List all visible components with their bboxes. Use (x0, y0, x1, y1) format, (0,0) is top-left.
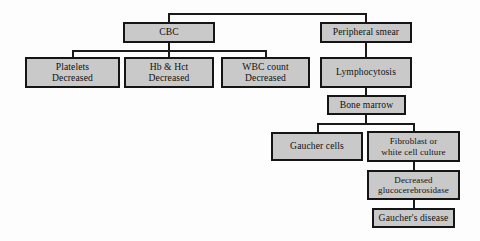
node-bone-marrow[interactable]: Bone marrow (327, 95, 406, 115)
node-platelets-decreased-label: Platelets Decreased (29, 62, 116, 84)
node-fibroblast-line-1: Fibroblast or (371, 136, 456, 146)
node-glucocerebrosidase-label: Decreased glucocerebrosidase (371, 175, 456, 196)
node-hb-hct-decreased-label: Hb & Hct Decreased (128, 62, 210, 84)
node-wbc-count-decreased[interactable]: WBC count Decreased (221, 57, 310, 88)
node-fibroblast-line-2: white cell culture (371, 147, 456, 157)
node-gaucher-cells[interactable]: Gaucher cells (271, 132, 363, 161)
node-wbc-count-decreased-label: WBC count Decreased (225, 62, 306, 84)
node-fibroblast-label: Fibroblast or white cell culture (371, 136, 456, 157)
node-platelets-decreased[interactable]: Platelets Decreased (25, 57, 120, 88)
node-hb-hct-decreased[interactable]: Hb & Hct Decreased (124, 57, 214, 88)
connector-root-horizontal (168, 13, 367, 15)
node-hb-hct-line-2: Decreased (128, 73, 210, 84)
node-glucocerebrosidase-line-1: Decreased (371, 175, 456, 185)
node-peripheral-smear-label: Peripheral smear (324, 27, 408, 38)
node-gauchers-disease-label: Gaucher's disease (376, 213, 451, 224)
flowchart-canvas: CBC Peripheral smear Platelets Decreased… (0, 0, 480, 241)
node-cbc-label: CBC (127, 27, 211, 38)
connector-bone-marrow-to-gaucher-cells (317, 123, 319, 132)
connector-bone-marrow-to-fibroblast (413, 123, 415, 131)
node-gaucher-cells-label: Gaucher cells (275, 141, 359, 152)
node-lymphocytosis-label: Lymphocytosis (324, 67, 408, 78)
node-lymphocytosis[interactable]: Lymphocytosis (320, 57, 412, 88)
connector-peripheral-to-lymphocytosis (365, 42, 367, 58)
node-fibroblast-white-cell-culture[interactable]: Fibroblast or white cell culture (367, 131, 460, 162)
node-platelets-line-1: Platelets (29, 62, 116, 73)
node-platelets-line-2: Decreased (29, 73, 116, 84)
node-wbc-line-2: Decreased (225, 73, 306, 84)
node-bone-marrow-label: Bone marrow (331, 100, 402, 111)
node-gauchers-disease[interactable]: Gaucher's disease (372, 208, 455, 228)
connector-bone-marrow-horizontal (317, 123, 414, 125)
node-cbc[interactable]: CBC (123, 22, 215, 43)
node-decreased-glucocerebrosidase[interactable]: Decreased glucocerebrosidase (367, 170, 460, 200)
node-wbc-line-1: WBC count (225, 62, 306, 73)
node-glucocerebrosidase-line-2: glucocerebrosidase (371, 185, 456, 195)
node-hb-hct-line-1: Hb & Hct (128, 62, 210, 73)
node-peripheral-smear[interactable]: Peripheral smear (320, 22, 412, 43)
